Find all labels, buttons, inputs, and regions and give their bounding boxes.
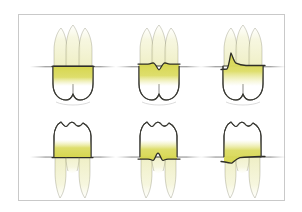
root-mesial [55, 154, 66, 198]
tooth-upper-angular [200, 22, 286, 114]
panel-lower-right [200, 110, 286, 202]
root-group-upper [54, 25, 92, 69]
root-palatal [236, 25, 250, 69]
crown-shadow [142, 102, 176, 105]
root-distal [249, 154, 260, 198]
root-group-lower [141, 154, 176, 198]
tooth-grid [18, 14, 285, 201]
panel-upper-right [200, 22, 286, 114]
root-group-upper [140, 25, 178, 69]
bone-band-horizontal [54, 140, 91, 158]
panel-upper-middle [116, 22, 202, 114]
tooth-lower-angular [200, 110, 286, 202]
bone-band-horizontal [53, 67, 93, 87]
root-palatal [152, 25, 166, 69]
crown-shadow [56, 102, 90, 105]
tooth-lower-crater [116, 110, 202, 202]
root-mesiobuccal [54, 28, 67, 69]
tooth-upper-crater [116, 22, 202, 114]
root-group-lower [55, 154, 90, 198]
crown-shadow [226, 102, 260, 105]
illustration-canvas [0, 0, 302, 212]
root-distobuccal [79, 28, 92, 69]
root-distal [79, 154, 90, 198]
root-palatal [66, 25, 80, 69]
root-mesial [141, 154, 152, 198]
root-distal [165, 154, 176, 198]
tooth-lower-horizontal [30, 110, 116, 202]
panel-upper-left [30, 22, 116, 114]
panel-lower-left [30, 110, 116, 202]
tooth-upper-horizontal [30, 22, 116, 114]
panel-lower-middle [116, 110, 202, 202]
root-distobuccal [249, 28, 262, 69]
